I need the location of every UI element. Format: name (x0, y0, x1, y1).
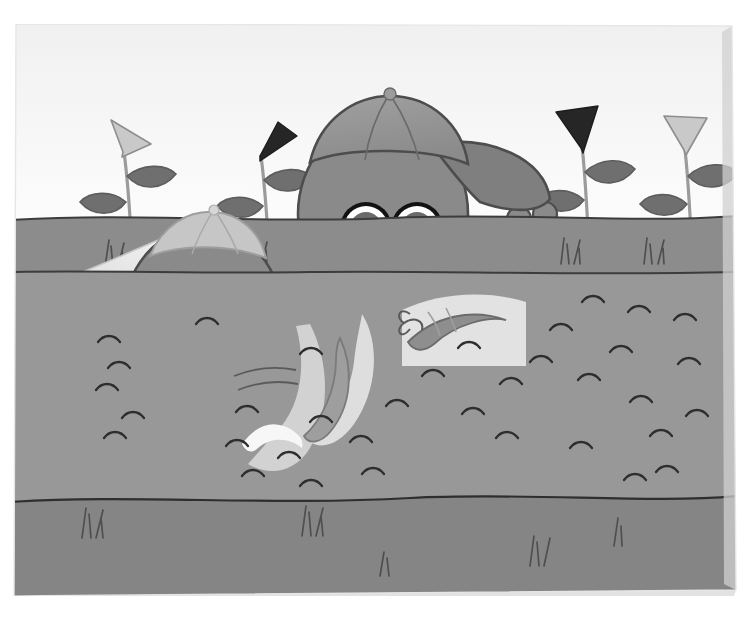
artwork-stage: Grayscale cartoon illustration of a brid… (0, 0, 754, 624)
lower-soil-band (10, 496, 738, 596)
illustration-svg (10, 24, 738, 596)
canvas-print (10, 24, 738, 596)
cap-button (384, 88, 396, 100)
bouquet-paper (402, 294, 526, 366)
art-content (10, 24, 738, 596)
bouquet-decor (399, 294, 526, 366)
veil-button (209, 205, 219, 215)
